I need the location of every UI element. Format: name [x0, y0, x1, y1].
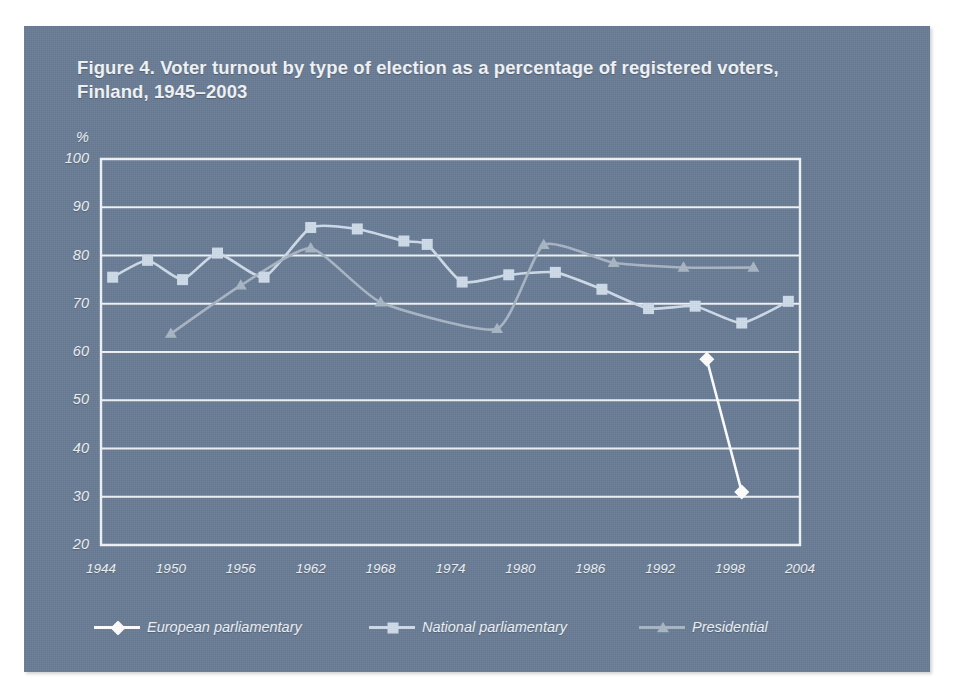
triangle-marker-icon — [657, 622, 669, 632]
legend-item-presidential[interactable]: Presidential — [639, 619, 768, 635]
x-axis-tick-label: 1962 — [281, 561, 341, 576]
legend-label: Presidential — [692, 619, 768, 635]
diamond-marker-icon — [111, 621, 125, 635]
x-axis-tick-label: 1998 — [700, 561, 760, 576]
data-point-square-marker-icon — [398, 236, 409, 247]
square-marker-icon — [388, 623, 399, 634]
triangle-marker-icon — [639, 619, 685, 635]
data-point-square-marker-icon — [259, 272, 270, 283]
x-axis-tick-label: 1986 — [560, 561, 620, 576]
data-point-square-marker-icon — [457, 277, 468, 288]
square-marker-icon — [369, 619, 415, 635]
series-line-national-parliamentary — [113, 226, 789, 323]
x-axis-tick-label: 1956 — [211, 561, 271, 576]
y-axis-tick-label: 90 — [43, 198, 89, 214]
x-axis-tick-label: 1992 — [630, 561, 690, 576]
figure-panel: Figure 4. Voter turnout by type of elect… — [24, 26, 930, 672]
series-line-european-parliamentary — [707, 359, 742, 492]
y-axis-tick-label: 20 — [43, 536, 89, 552]
legend-item-national-parliamentary[interactable]: National parliamentary — [369, 619, 567, 635]
data-point-square-marker-icon — [212, 248, 223, 259]
chart-plot-area: % 1009080706050403020 194419501956196219… — [24, 26, 930, 672]
data-point-square-marker-icon — [503, 269, 514, 280]
data-point-square-marker-icon — [177, 274, 188, 285]
x-axis-tick-label: 1980 — [490, 561, 550, 576]
data-point-square-marker-icon — [107, 272, 118, 283]
y-axis-tick-label: 80 — [43, 247, 89, 263]
y-axis-tick-label: 60 — [43, 343, 89, 359]
triangle-marker-icon — [656, 621, 670, 635]
data-point-triangle-marker-icon — [235, 279, 247, 289]
x-axis-tick-label: 1950 — [141, 561, 201, 576]
data-point-square-marker-icon — [352, 223, 363, 234]
series-line-presidential — [171, 244, 754, 334]
x-axis-tick-label: 1974 — [421, 561, 481, 576]
x-axis-tick-label: 1968 — [351, 561, 411, 576]
x-axis-tick-label: 1944 — [71, 561, 131, 576]
chart-legend: European parliamentaryNational parliamen… — [94, 617, 874, 647]
data-point-square-marker-icon — [422, 239, 433, 250]
data-point-square-marker-icon — [690, 301, 701, 312]
square-marker-icon — [386, 621, 400, 635]
legend-label: National parliamentary — [422, 619, 567, 635]
y-axis-tick-label: 50 — [43, 391, 89, 407]
series-markers-group — [107, 222, 794, 499]
y-axis-tick-label: 40 — [43, 440, 89, 456]
y-axis-unit-label: % — [43, 129, 89, 145]
y-axis-tick-label: 100 — [43, 150, 89, 166]
legend-label: European parliamentary — [147, 619, 302, 635]
y-axis-tick-label: 30 — [43, 488, 89, 504]
data-point-triangle-marker-icon — [165, 327, 177, 337]
data-point-square-marker-icon — [305, 222, 316, 233]
y-axis-tick-label: 70 — [43, 295, 89, 311]
data-point-square-marker-icon — [783, 296, 794, 307]
x-axis-tick-label: 2004 — [770, 561, 830, 576]
data-point-square-marker-icon — [596, 284, 607, 295]
data-point-diamond-marker-icon — [699, 352, 714, 367]
data-point-square-marker-icon — [142, 255, 153, 266]
diamond-marker-icon — [94, 619, 140, 635]
data-point-square-marker-icon — [736, 318, 747, 329]
data-point-square-marker-icon — [550, 267, 561, 278]
legend-item-european-parliamentary[interactable]: European parliamentary — [94, 619, 302, 635]
gridlines-group — [101, 159, 800, 545]
diamond-marker-icon — [111, 621, 125, 635]
series-lines-group — [113, 226, 789, 492]
data-point-square-marker-icon — [643, 303, 654, 314]
data-point-triangle-marker-icon — [305, 242, 317, 252]
